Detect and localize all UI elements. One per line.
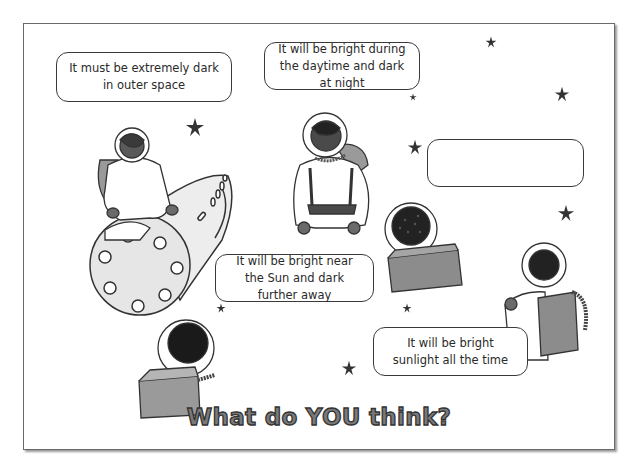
star-icon <box>186 118 204 136</box>
star-icon <box>342 361 356 375</box>
bubble-text: It must be extremely dark in outer space <box>67 60 221 94</box>
worksheet-title: What do YOU think? <box>0 404 638 430</box>
star-icon <box>408 140 422 154</box>
star-icon <box>558 205 574 221</box>
speech-bubble-dark-outer-space: It must be extremely dark in outer space <box>56 52 232 102</box>
speech-bubble-day-night: It will be bright during the daytime and… <box>264 42 420 90</box>
star-icon <box>555 87 569 101</box>
speech-bubble-always-bright: It will be bright sunlight all the time <box>373 327 528 376</box>
speech-bubble-near-sun: It will be bright near the Sun and dark … <box>215 254 374 302</box>
speech-bubble-empty[interactable] <box>427 139 584 187</box>
bubble-text: It will be bright sunlight all the time <box>384 335 517 369</box>
star-icon <box>403 304 412 313</box>
star-icon <box>217 304 226 313</box>
astronaut-icon <box>294 113 369 234</box>
bubble-text: It will be bright near the Sun and dark … <box>226 253 363 304</box>
astronaut-icon <box>385 203 462 292</box>
star-icon <box>409 93 416 100</box>
bubble-text: It will be bright during the daytime and… <box>275 41 409 92</box>
star-icon <box>486 37 497 48</box>
